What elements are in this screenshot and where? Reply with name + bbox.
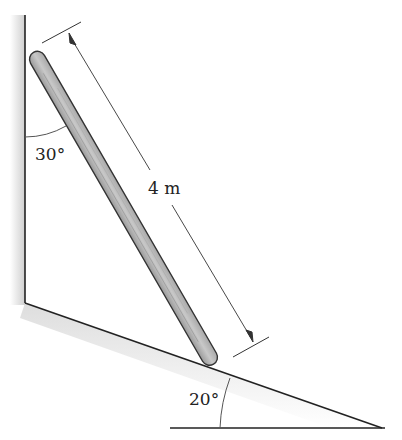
wall-angle-label: 30°	[35, 146, 65, 163]
inclined-floor	[20, 303, 382, 428]
length-label: 4 m	[148, 180, 180, 197]
incline-angle-label: 20°	[189, 391, 219, 408]
diagram-svg	[0, 0, 402, 440]
diagram-canvas: 4 m 30° 20°	[0, 0, 402, 440]
wall	[10, 15, 25, 305]
wall-angle-arc	[25, 126, 66, 137]
